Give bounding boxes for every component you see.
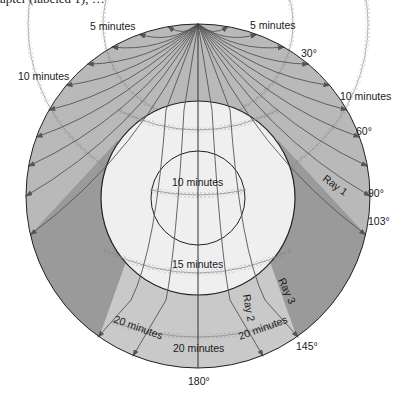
label-10-minutes-right: 10 minutes	[340, 90, 391, 102]
label-145-degrees: 145°	[296, 340, 318, 352]
label-180-degrees: 180°	[188, 375, 210, 387]
label-60-degrees: 60°	[356, 125, 372, 137]
label-103-degrees: 103°	[368, 215, 390, 227]
label-5-minutes-left: 5 minutes	[90, 20, 136, 32]
label-90-degrees: 90°	[368, 187, 384, 199]
label-15-minutes: 15 minutes	[172, 258, 223, 270]
label-10-minutes-core: 10 minutes	[172, 176, 223, 188]
earth-cross-section-diagram: 5 minutes 5 minutes 30° 10 minutes 10 mi…	[0, 0, 408, 400]
label-10-minutes-left: 10 minutes	[18, 70, 69, 82]
label-5-minutes-right: 5 minutes	[250, 19, 296, 31]
label-20-minutes-center: 20 minutes	[173, 342, 224, 354]
label-30-degrees: 30°	[301, 47, 317, 59]
